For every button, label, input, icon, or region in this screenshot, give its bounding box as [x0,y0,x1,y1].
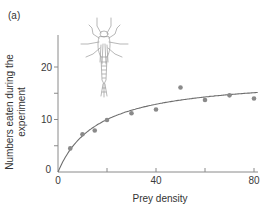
data-point [252,96,257,101]
x-tick-label: 80 [248,175,260,186]
data-point [227,93,232,98]
y-ticks [54,67,58,146]
axes [54,35,258,172]
data-point [68,146,73,151]
data-points [68,85,256,151]
x-ticks [107,168,254,172]
y-tick-labels: 10200 [41,62,53,176]
y-tick-label: 20 [41,62,53,73]
data-point [129,111,134,116]
damselfly-nymph-icon [81,18,128,97]
y-tick-label: 10 [41,114,53,125]
data-point [80,132,85,137]
plot-area: 10200 04080 [0,0,274,212]
data-point [178,85,183,90]
data-point [105,118,110,123]
data-point [92,128,97,133]
x-tick-labels: 04080 [55,175,260,186]
data-point [154,107,159,112]
y-tick-label: 0 [45,164,51,175]
fitted-curve [58,93,258,173]
x-tick-label: 0 [55,175,61,186]
functional-response-figure: (a) Numbers eaten during the experiment … [0,0,274,212]
data-point [203,98,208,103]
x-tick-label: 40 [150,175,162,186]
